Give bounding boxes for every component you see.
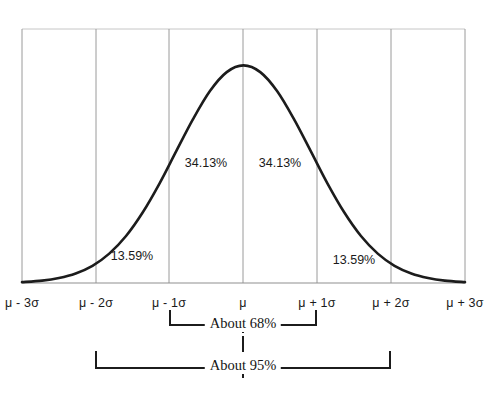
about-68-bracket-label: About 68% bbox=[205, 315, 281, 332]
region-label-34-13-right: 34.13% bbox=[259, 156, 301, 170]
region-label-13-59-left: 13.59% bbox=[111, 249, 153, 263]
about-95-bracket-label: About 95% bbox=[205, 357, 281, 374]
normal-distribution-chart: μ - 3σ μ - 2σ μ - 1σ μ μ + 1σ μ + 2σ μ +… bbox=[0, 0, 491, 405]
gridlines bbox=[22, 29, 465, 283]
x-tick-label-plus-2-sigma: μ + 2σ bbox=[372, 296, 409, 310]
x-tick-label-plus-3-sigma: μ + 3σ bbox=[446, 296, 483, 310]
region-label-13-59-right: 13.59% bbox=[333, 253, 375, 267]
x-tick-label-mean: μ bbox=[239, 296, 246, 310]
x-tick-label-minus-2-sigma: μ - 2σ bbox=[79, 296, 113, 310]
region-label-34-13-left: 34.13% bbox=[185, 156, 227, 170]
x-tick-label-minus-3-sigma: μ - 3σ bbox=[5, 296, 39, 310]
chart-plot-area bbox=[0, 0, 491, 405]
x-tick-label-plus-1-sigma: μ + 1σ bbox=[298, 296, 335, 310]
x-tick-label-minus-1-sigma: μ - 1σ bbox=[152, 296, 186, 310]
